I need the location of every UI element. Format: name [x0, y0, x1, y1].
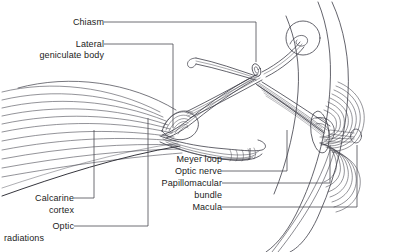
label-optic-nerve: Optic nerve: [122, 166, 222, 177]
label-chiasm: Chiasm: [16, 17, 104, 28]
label-papillomacular: Papillomacular: [122, 178, 222, 189]
leader-lateral-geniculate: [104, 44, 173, 128]
label-geniculate-body: geniculate body: [6, 50, 104, 61]
label-cortex: cortex: [4, 205, 74, 216]
label-bundle: bundle: [122, 190, 222, 201]
label-optic: Optic: [4, 221, 74, 232]
leader-calcarine: [74, 130, 94, 198]
label-meyer-loop: Meyer loop: [122, 154, 222, 165]
label-calcarine: Calcarine: [4, 193, 74, 204]
figure-canvas: Chiasm Lateral geniculate body Meyer loo…: [0, 0, 395, 252]
leader-optic-nerve: [222, 130, 287, 171]
label-radiations: radiations: [4, 233, 84, 244]
leader-meyer-loop: [222, 148, 250, 159]
leader-chiasm: [104, 22, 256, 62]
label-macula: Macula: [122, 202, 222, 213]
label-lateral: Lateral: [16, 39, 104, 50]
leader-papillomacular: [222, 145, 330, 183]
leader-macula: [222, 145, 357, 207]
